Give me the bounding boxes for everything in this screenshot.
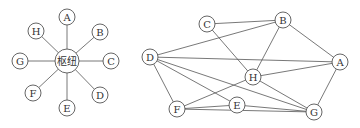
svg-text:G: G: [16, 56, 24, 67]
svg-text:G: G: [310, 107, 318, 118]
svg-text:D: D: [96, 90, 104, 101]
svg-text:B: B: [96, 27, 103, 38]
mesh-node-B: B: [275, 12, 291, 28]
node-H: H: [28, 23, 44, 39]
mesh-node-C: C: [199, 16, 215, 32]
mesh-node-E: E: [229, 97, 245, 113]
topology-diagrams: ABCDEFGH枢纽ABCDEFGH: [0, 0, 360, 128]
svg-text:F: F: [30, 88, 37, 99]
svg-text:E: E: [63, 103, 70, 114]
node-B: B: [92, 24, 108, 40]
mesh-node-H: H: [245, 69, 261, 85]
edge-B-H: [253, 20, 283, 77]
edge-D-B: [150, 20, 283, 57]
edge-A-G: [314, 62, 340, 112]
edge-B-A: [283, 20, 340, 62]
svg-text:C: C: [107, 56, 115, 67]
svg-text:H: H: [249, 72, 258, 83]
hub-node: 枢纽: [55, 49, 79, 73]
node-C: C: [103, 53, 119, 69]
node-A: A: [59, 9, 75, 25]
svg-text:B: B: [279, 15, 286, 26]
edge-D-A: [150, 57, 340, 62]
svg-text:枢纽: 枢纽: [57, 55, 77, 67]
svg-text:A: A: [335, 57, 344, 68]
mesh-node-A: A: [332, 54, 348, 70]
mesh-node-F: F: [169, 101, 185, 117]
svg-text:E: E: [233, 100, 240, 111]
edge-H-A: [253, 62, 340, 77]
svg-text:H: H: [32, 26, 41, 37]
svg-text:A: A: [62, 12, 71, 23]
svg-text:D: D: [146, 52, 154, 63]
mesh-node-G: G: [306, 104, 322, 120]
mesh-node-D: D: [142, 49, 158, 65]
node-G: G: [12, 53, 28, 69]
svg-text:F: F: [174, 104, 181, 115]
node-D: D: [92, 87, 108, 103]
svg-text:C: C: [203, 19, 211, 30]
edge-D-E: [150, 57, 237, 105]
node-E: E: [59, 100, 75, 116]
node-F: F: [25, 85, 41, 101]
edge-C-H: [207, 24, 253, 77]
